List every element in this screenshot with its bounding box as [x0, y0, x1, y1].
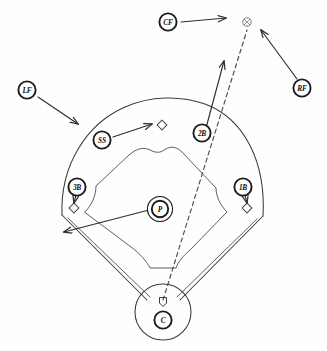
field-canvas: CF RF LF SS 2B 3B 1B P — [0, 0, 327, 351]
player-token-cf[interactable]: CF — [159, 13, 176, 30]
rf-movement-arrow — [261, 30, 297, 79]
player-token-lf[interactable]: LF — [18, 81, 35, 98]
2b-movement-arrow — [206, 61, 224, 128]
player-token-p[interactable]: P — [148, 197, 173, 222]
right-foul-line-outer — [180, 216, 263, 300]
player-token-c[interactable]: C — [154, 311, 171, 328]
player-token-rf[interactable]: RF — [293, 79, 310, 96]
third-base-bag — [69, 203, 79, 213]
player-label-2b: 2B — [197, 129, 206, 138]
player-token-3b[interactable]: 3B — [68, 178, 85, 195]
player-tokens: CF RF LF SS 2B 3B 1B P — [18, 13, 310, 328]
player-token-2b[interactable]: 2B — [193, 124, 210, 141]
player-token-ss[interactable]: SS — [93, 131, 110, 148]
player-label-p: P — [158, 205, 163, 214]
player-label-ss: SS — [98, 136, 106, 145]
cf-movement-arrow — [181, 18, 226, 22]
ss-movement-arrow — [113, 124, 152, 137]
left-foul-line-outer — [62, 215, 147, 300]
player-token-1b[interactable]: 1B — [234, 178, 251, 195]
player-label-lf: LF — [21, 86, 31, 95]
player-label-cf: CF — [163, 18, 173, 27]
player-label-c: C — [161, 316, 166, 325]
first-base-bag — [242, 203, 252, 213]
player-label-1b: 1B — [239, 183, 247, 192]
baseball-diagram: CF RF LF SS 2B 3B 1B P — [0, 0, 327, 351]
player-label-rf: RF — [296, 84, 307, 93]
second-base-bag — [157, 120, 167, 130]
ball-trajectory-line — [163, 30, 247, 300]
batted-ball — [243, 18, 251, 26]
right-foul-line-inner — [177, 219, 257, 297]
lf-movement-arrow — [38, 97, 78, 124]
player-label-3b: 3B — [72, 183, 81, 192]
